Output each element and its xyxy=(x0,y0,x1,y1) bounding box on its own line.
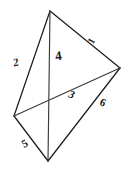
diagonal-vertical xyxy=(48,11,50,161)
geometry-figure: 2 1 4 3 6 5 xyxy=(0,0,135,172)
figure-canvas xyxy=(0,0,135,172)
edge-right-to-bottom xyxy=(48,68,120,161)
label-center-region: 4 xyxy=(54,49,62,63)
diagonal-cross xyxy=(14,68,120,116)
